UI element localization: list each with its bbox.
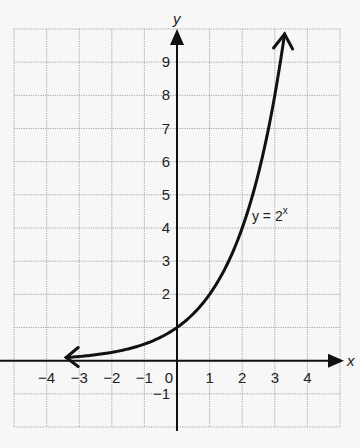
curve-2-pow-x [66,34,284,358]
y-tick-label: 7 [162,120,170,137]
y-tick-label: 5 [162,186,170,203]
x-tick-label: −1 [136,369,153,386]
y-axis-title: y [172,10,182,27]
y-tick-label: 6 [162,153,170,170]
x-tick-label: 0 [165,369,173,386]
y-tick-label: 9 [162,53,170,70]
y-tick-label: −1 [153,385,170,402]
function-curve [66,34,292,367]
x-tick-label: 2 [238,369,246,386]
x-axis-arrow-icon [328,354,344,368]
y-tick-label: 8 [162,86,170,103]
x-tick-label: −2 [103,369,120,386]
y-axis-arrow-icon [170,29,184,45]
y-tick-label: 3 [162,252,170,269]
function-label-main: y = 2 [252,208,283,224]
tick-labels: −4−3−2−101234−123456789 [38,53,312,402]
x-tick-label: −3 [71,369,88,386]
x-tick-label: −4 [38,369,55,386]
x-tick-label: 4 [303,369,311,386]
x-axis-title: x [346,352,355,369]
y-tick-label: 2 [162,285,170,302]
x-tick-label: 3 [271,369,279,386]
function-label-exponent: x [283,205,288,216]
x-tick-label: 1 [205,369,213,386]
function-label: y = 2x [252,205,288,224]
exponential-graph: x y −4−3−2−101234−123456789 y = 2x [0,0,360,448]
y-tick-label: 4 [162,219,170,236]
